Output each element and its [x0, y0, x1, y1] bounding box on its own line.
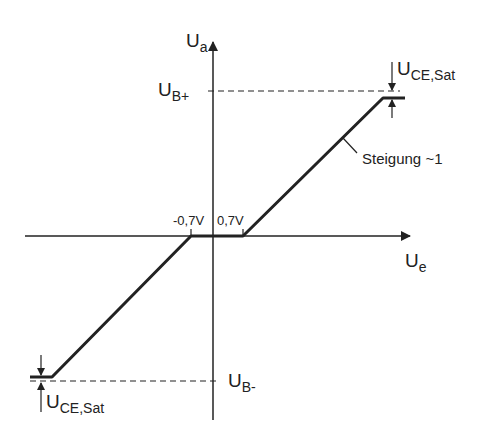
x-axis-label: Ue [405, 251, 427, 274]
transfer-curve [30, 98, 405, 377]
uce-sat-top-label: UCE,Sat [397, 59, 455, 82]
y-axis-label: Ua [186, 31, 208, 54]
ub-plus-label: UB+ [158, 80, 189, 103]
slope-leader-line [343, 138, 357, 153]
slope-annotation: Steigung ~1 [362, 151, 443, 166]
positive-threshold-label: 0,7V [217, 214, 244, 227]
ub-minus-label: UB- [228, 371, 256, 394]
negative-threshold-label: -0,7V [173, 214, 204, 227]
uce-sat-bottom-label: UCE,Sat [46, 392, 104, 415]
